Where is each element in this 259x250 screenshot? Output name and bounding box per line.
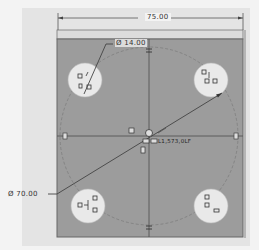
hole-top-right[interactable]	[194, 63, 228, 97]
constraint-marker-origin-a	[143, 139, 149, 143]
plate-top-band	[57, 30, 243, 39]
constraint-marker-origin-below	[141, 147, 145, 153]
constraint-marker-origin-left	[129, 128, 134, 133]
overall-width-dimension[interactable]: 75.00	[145, 13, 171, 21]
arrow-left-icon	[58, 17, 63, 20]
origin-icon[interactable]	[146, 130, 153, 137]
constraint-marker-left[interactable]	[63, 133, 67, 139]
arrow-right-icon	[238, 17, 243, 20]
sketch-canvas[interactable]	[0, 0, 259, 250]
constraint-marker-origin-b	[151, 139, 157, 143]
origin-coordinate-label: L1,573,0LF	[158, 138, 191, 144]
bolt-circle-diameter-dimension[interactable]: Ø 70.00	[8, 190, 38, 198]
hole-diameter-dimension[interactable]: Ø 14.00	[115, 39, 147, 47]
hole-bottom-right[interactable]	[194, 189, 228, 223]
constraint-marker-right[interactable]	[234, 133, 238, 139]
